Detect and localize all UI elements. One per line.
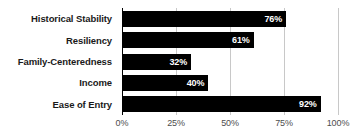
- bar-row: 61%: [122, 29, 338, 50]
- horizontal-bar-chart: Historical Stability Resiliency Family-C…: [0, 0, 359, 139]
- category-label-income: Income: [79, 77, 112, 88]
- x-tick-label-50: 50%: [221, 118, 239, 128]
- category-label-historical-stability: Historical Stability: [31, 13, 112, 24]
- category-label-row: Income: [0, 72, 117, 93]
- bar-row: 32%: [122, 51, 338, 72]
- bar-value-ease-of-entry: 92%: [299, 99, 317, 109]
- x-tick-label-100: 100%: [327, 118, 350, 128]
- category-label-family-centeredness: Family-Centeredness: [18, 56, 112, 67]
- category-label-row: Family-Centeredness: [0, 51, 117, 72]
- bar-ease-of-entry: 92%: [122, 96, 321, 112]
- bar-resiliency: 61%: [122, 32, 254, 48]
- bars-layer: 76% 61% 32% 40% 92%: [122, 8, 338, 115]
- x-tick-label-75: 75%: [275, 118, 293, 128]
- bar-value-family-centeredness: 32%: [169, 57, 187, 67]
- bar-row: 76%: [122, 8, 338, 29]
- bar-value-resiliency: 61%: [232, 35, 250, 45]
- category-axis: Historical Stability Resiliency Family-C…: [0, 8, 117, 115]
- category-label-resiliency: Resiliency: [66, 35, 112, 46]
- category-label-row: Historical Stability: [0, 8, 117, 29]
- gridline-100: [338, 8, 339, 115]
- category-label-ease-of-entry: Ease of Entry: [53, 99, 112, 110]
- x-axis-labels: 0%25%50%75%100%: [122, 118, 338, 134]
- x-tick-label-25: 25%: [167, 118, 185, 128]
- bar-family-centeredness: 32%: [122, 54, 191, 70]
- category-label-row: Ease of Entry: [0, 94, 117, 115]
- bar-income: 40%: [122, 75, 208, 91]
- bar-historical-stability: 76%: [122, 11, 286, 27]
- bar-value-income: 40%: [187, 78, 205, 88]
- x-tick-label-0: 0%: [116, 118, 129, 128]
- bar-row: 92%: [122, 94, 338, 115]
- bar-value-historical-stability: 76%: [264, 14, 282, 24]
- category-label-row: Resiliency: [0, 29, 117, 50]
- bar-row: 40%: [122, 72, 338, 93]
- plot-area: 76% 61% 32% 40% 92%: [122, 8, 338, 115]
